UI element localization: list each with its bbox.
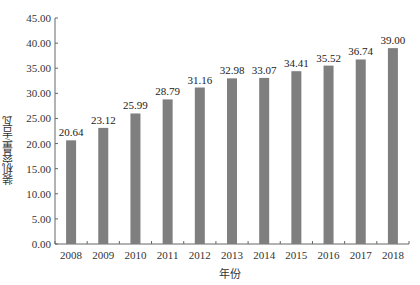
bar [291,71,301,244]
data-label: 20.64 [59,126,84,138]
data-label: 23.12 [91,114,116,126]
y-tick-label: 20.00 [26,138,51,150]
y-axis-label: 装机容量/吉瓦 [0,70,20,230]
bar [259,78,269,244]
y-tick-label: 45.00 [26,12,51,24]
bar [98,128,108,244]
y-tick-label: 25.00 [26,112,51,124]
x-tick-label: 2012 [189,249,211,261]
bar-series: 20.6423.1225.9928.7931.1632.9833.0734.41… [59,34,406,244]
data-label: 39.00 [381,34,406,46]
bar [163,99,173,244]
data-label: 35.52 [316,52,341,64]
x-tick-label: 2013 [221,249,244,261]
bar [356,59,366,244]
x-tick-label: 2018 [382,249,405,261]
bar [324,66,334,244]
y-tick-label: 10.00 [26,188,51,200]
x-tick-label: 2010 [124,249,147,261]
bar [130,113,140,244]
bar [388,48,398,244]
y-tick-label: 15.00 [26,163,51,175]
data-label: 34.41 [284,57,309,69]
x-tick-label: 2016 [318,249,341,261]
data-label: 32.98 [220,64,245,76]
x-tick-label: 2015 [285,249,308,261]
y-tick-label: 30.00 [26,87,51,99]
y-tick-label: 40.00 [26,37,51,49]
x-axis-label: 年份 [200,265,260,281]
x-tick-label: 2014 [253,249,276,261]
x-tick-label: 2008 [60,249,83,261]
data-label: 28.79 [155,85,180,97]
bar [66,140,76,244]
bar [195,88,205,244]
data-label: 25.99 [123,99,148,111]
data-label: 36.74 [348,45,373,57]
x-tick-label: 2017 [350,249,373,261]
bar [227,78,237,244]
bar-chart: 0.005.0010.0015.0020.0025.0030.0035.0040… [0,0,420,285]
x-tick-label: 2009 [92,249,115,261]
data-label: 33.07 [252,64,277,76]
data-label: 31.16 [187,74,212,86]
x-tick-label: 2011 [157,249,179,261]
y-axis: 0.005.0010.0015.0020.0025.0030.0035.0040… [26,12,58,250]
y-tick-label: 35.00 [26,62,51,74]
y-tick-label: 5.00 [32,213,52,225]
y-tick-label: 0.00 [32,238,52,250]
